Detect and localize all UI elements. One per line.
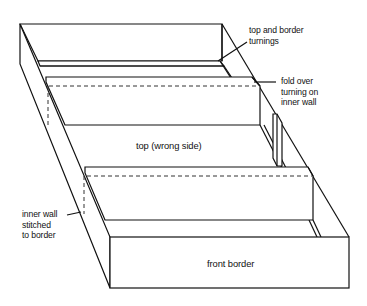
label-top-wrong-side: top (wrong side) xyxy=(136,141,202,152)
fold-over-turning xyxy=(273,114,282,166)
front-inner-wall xyxy=(84,167,313,220)
label-inner-wall-stitched: inner wall stitched to border xyxy=(22,209,57,241)
label-line: turnings xyxy=(249,36,304,47)
label-top-border-turnings: top and border turnings xyxy=(249,25,304,46)
back-inner-wall xyxy=(46,77,260,125)
label-line: stitched xyxy=(22,220,57,231)
box-diagram xyxy=(0,0,367,306)
label-line: to border xyxy=(22,230,57,241)
label-line: inner wall xyxy=(22,209,57,220)
label-line: turning on xyxy=(281,87,318,98)
label-line: top and border xyxy=(249,25,304,36)
label-fold-over: fold over turning on inner wall xyxy=(281,76,318,108)
back-wall xyxy=(20,24,222,61)
label-front-border: front border xyxy=(207,259,254,270)
label-line: fold over xyxy=(281,76,318,87)
label-line: inner wall xyxy=(281,97,318,108)
